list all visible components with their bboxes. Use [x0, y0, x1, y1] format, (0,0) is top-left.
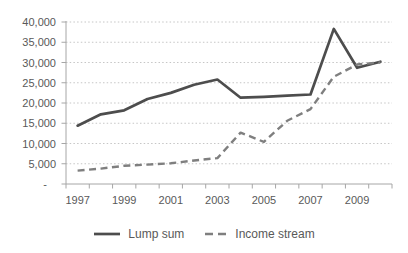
y-tick-label: 5,000: [0, 157, 56, 171]
y-tick-label: 25,000: [0, 76, 56, 90]
lump-sum-line-swatch: [93, 231, 121, 237]
income-stream-line: [78, 63, 381, 171]
legend-label-lump-sum: Lump sum: [128, 227, 184, 241]
legend-item-income-stream: Income stream: [204, 227, 314, 241]
legend-item-lump-sum: Lump sum: [93, 227, 184, 241]
pension-line-chart: - 5,000 10,000 15,000 20,000 25,000 30,0…: [0, 0, 408, 253]
lump-sum-line: [78, 29, 381, 126]
x-tick-label: 2003: [195, 193, 239, 207]
plot-area: [0, 0, 408, 253]
y-tick-label: 35,000: [0, 35, 56, 49]
x-tick-label: 2007: [289, 193, 333, 207]
y-tick-label: 15,000: [0, 116, 56, 130]
chart-legend: Lump sum Income stream: [0, 225, 408, 243]
x-tick-label: 1999: [102, 193, 146, 207]
y-tick-label: -: [0, 177, 56, 191]
legend-label-income-stream: Income stream: [235, 227, 314, 241]
x-tick-label: 2005: [242, 193, 286, 207]
y-tick-label: 40,000: [0, 15, 56, 29]
y-tick-label: 20,000: [0, 96, 56, 110]
y-tick-label: 10,000: [0, 137, 56, 151]
income-stream-line-swatch: [204, 231, 228, 237]
x-tick-label: 2009: [335, 193, 379, 207]
y-tick-label: 30,000: [0, 56, 56, 70]
x-tick-label: 2001: [149, 193, 193, 207]
x-tick-label: 1997: [56, 193, 100, 207]
